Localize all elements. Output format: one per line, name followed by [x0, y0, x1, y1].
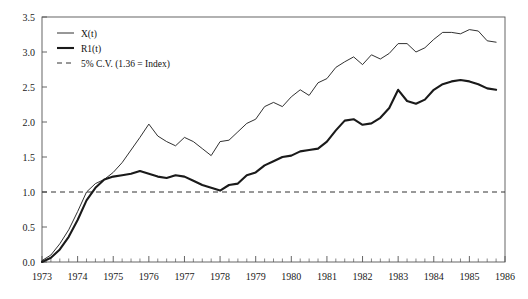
y-tick-label: 3.5 [23, 12, 36, 23]
x-tick-label: 1980 [281, 271, 301, 282]
legend-label: 5% C.V. (1.36 = Index) [81, 59, 170, 70]
y-tick-label: 1.0 [23, 187, 36, 198]
x-tick-label: 1986 [495, 271, 515, 282]
y-tick-label: 2.0 [23, 117, 36, 128]
legend-label: R1(t) [81, 44, 101, 55]
y-tick-label: 0.0 [23, 257, 36, 268]
x-tick-label: 1982 [353, 271, 373, 282]
x-tick-label: 1977 [174, 271, 194, 282]
x-tick-label: 1973 [32, 271, 52, 282]
y-tick-label: 3.0 [23, 47, 36, 58]
x-tick-label: 1984 [424, 271, 444, 282]
x-tick-label: 1981 [317, 271, 337, 282]
x-tick-label: 1983 [388, 271, 408, 282]
x-tick-label: 1985 [459, 271, 479, 282]
x-tick-label: 1976 [139, 271, 159, 282]
x-tick-label: 1974 [68, 271, 88, 282]
x-tick-label: 1978 [210, 271, 230, 282]
x-tick-label: 1979 [246, 271, 266, 282]
chart-container: 0.00.51.01.52.02.53.03.5 197319741975197… [0, 0, 528, 299]
y-tick-label: 2.5 [23, 82, 36, 93]
line-chart: 0.00.51.01.52.02.53.03.5 197319741975197… [0, 0, 528, 299]
legend-label: X(t) [81, 29, 97, 40]
y-tick-label: 0.5 [23, 222, 36, 233]
x-tick-label: 1975 [103, 271, 123, 282]
chart-background [0, 0, 528, 299]
y-tick-label: 1.5 [23, 152, 36, 163]
